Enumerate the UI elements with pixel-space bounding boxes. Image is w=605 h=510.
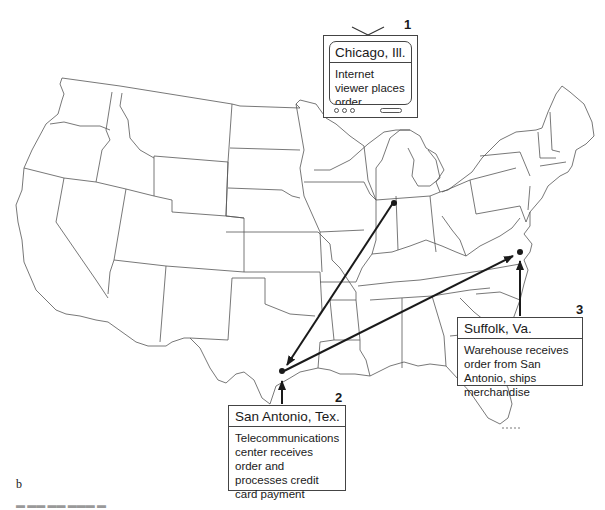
tv-knob-icon <box>342 108 347 113</box>
step-3-location: Suffolk, Va. <box>458 318 582 339</box>
step-1-number: 1 <box>404 17 411 32</box>
tv-speaker-slot-icon <box>380 108 402 113</box>
tv-screen: Chicago, Ill. Internet viewer places ord… <box>329 41 412 105</box>
step-2-location: San Antonio, Tex. <box>229 406 345 427</box>
step-1-location: Chicago, Ill. <box>330 42 411 63</box>
step-3-description: Warehouse receives order from San Antoni… <box>458 339 582 403</box>
tv-antenna-icon <box>352 27 384 35</box>
tv-knob-icon <box>334 108 339 113</box>
step-3-callout: Suffolk, Va. Warehouse receives order fr… <box>457 317 583 386</box>
figure-caption: ▬ ▬▬ ▬▬ ▬▬▬ ▬ <box>16 500 106 510</box>
dot-suffolk <box>517 249 523 255</box>
panel-label: b <box>16 477 22 492</box>
dot-chicago <box>391 200 397 206</box>
step-2-callout: San Antonio, Tex. Telecommunications cen… <box>228 405 346 491</box>
step-3-number: 3 <box>576 302 583 317</box>
step-1-description: Internet viewer places order <box>330 63 411 105</box>
step-2-description: Telecommunications center receives order… <box>229 427 345 505</box>
tv-set-icon: Chicago, Ill. Internet viewer places ord… <box>323 35 418 118</box>
tv-knob-icon <box>350 108 355 113</box>
dot-san-antonio <box>279 368 285 374</box>
step-2-number: 2 <box>335 390 342 405</box>
